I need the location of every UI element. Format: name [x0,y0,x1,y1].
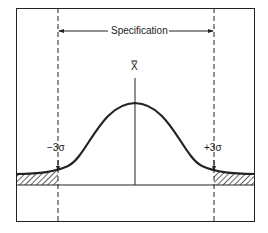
minus-3-sigma-label: −3σ [47,143,65,153]
arrowhead-left [58,29,64,33]
specification-label: Specification [110,26,169,36]
plus-3-sigma-label: +3σ [204,143,222,153]
mean-label: X̿ [131,62,138,72]
arrowhead-right [208,29,214,33]
